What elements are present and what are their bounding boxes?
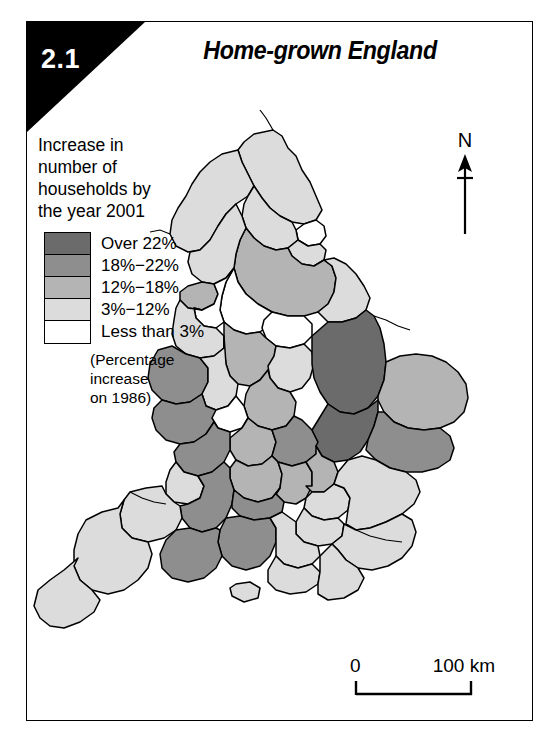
legend-item[interactable]: Less than 3%: [45, 321, 90, 343]
legend-label-less-than-3: Less than 3%: [101, 321, 204, 343]
page-title: Home-grown England: [162, 36, 478, 65]
legend-item[interactable]: 3%−12%: [45, 299, 90, 321]
legend-label-over-22: Over 22%: [101, 233, 177, 255]
scale-bar-zero-label: 0: [350, 655, 361, 677]
map-area-lincolnshire[interactable]: [312, 310, 386, 414]
legend-item[interactable]: 18%−22%: [45, 255, 90, 277]
scale-bar: 0 100 km: [350, 655, 495, 705]
scale-bar-max-label: 100 km: [433, 655, 495, 677]
legend-swatch-stack: Over 22% 18%−22% 12%−18% 3%−12% Less tha…: [44, 232, 91, 344]
badge-triangle: [27, 22, 145, 132]
map-legend: Increase in number of households by the …: [38, 134, 213, 408]
north-arrow: N: [445, 130, 485, 238]
legend-swatch-3-12: [45, 299, 90, 321]
legend-note: (Percentage increase on 1986): [90, 351, 213, 408]
north-arrow-icon: [445, 150, 485, 234]
legend-item[interactable]: Over 22%: [45, 233, 90, 255]
figure-number-badge: 2.1: [27, 22, 145, 132]
scale-bar-labels: 0 100 km: [350, 655, 495, 679]
coastline-detail-north: [260, 110, 273, 130]
legend-label-3-12: 3%−12%: [101, 299, 170, 321]
legend-title: Increase in number of households by the …: [38, 134, 213, 222]
map-area-hampshire[interactable]: [218, 516, 276, 570]
legend-item[interactable]: 12%−18%: [45, 277, 90, 299]
legend-swatch-over-22: [45, 233, 90, 255]
legend-label-18-22: 18%−22%: [101, 255, 179, 277]
legend-swatch-12-18: [45, 277, 90, 299]
map-area-isle-of-wight[interactable]: [230, 582, 260, 602]
scale-bar-graphic: [350, 679, 495, 701]
north-arrow-label: N: [445, 130, 485, 150]
legend-label-12-18: 12%−18%: [101, 277, 179, 299]
figure-container: 2.1 Home-grown England Increase in numbe…: [0, 0, 559, 749]
legend-swatch-18-22: [45, 255, 90, 277]
map-area-dorset[interactable]: [160, 528, 222, 582]
badge-number-label: 2.1: [41, 44, 80, 75]
legend-swatch-less-than-3: [45, 321, 90, 343]
